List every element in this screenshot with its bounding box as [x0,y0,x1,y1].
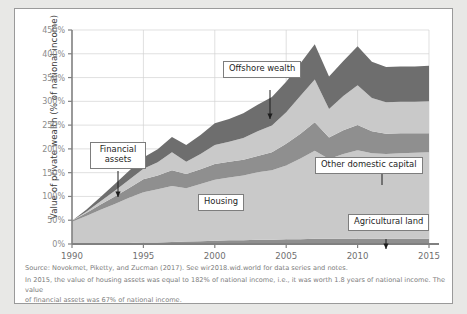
svg-text:2015: 2015 [418,251,440,261]
svg-text:200%: 200% [42,145,65,154]
svg-text:150%: 150% [42,169,65,178]
footnote-note-line1: In 2015, the value of housing assets was… [25,275,445,295]
chart-container: Value of private wealth (% of national i… [15,9,452,303]
svg-text:2005: 2005 [275,251,297,261]
svg-text:50%: 50% [47,216,65,225]
footnotes: Source: Novokmet, Piketty, and Zucman (2… [25,263,445,305]
footnote-source: Source: Novokmet, Piketty, and Zucman (2… [25,263,445,273]
svg-text:2010: 2010 [347,251,369,261]
svg-text:1990: 1990 [61,251,83,261]
svg-text:350%: 350% [42,74,65,83]
footnote-note-line2: of financial assets was 67% of national … [25,295,445,305]
annotation-other-domestic-capital: Other domestic capital [315,157,423,174]
svg-text:250%: 250% [42,121,65,130]
annotation-financial-assets: Financial assets [90,142,146,169]
svg-text:100%: 100% [42,192,65,201]
svg-text:450%: 450% [42,26,65,35]
svg-text:0%: 0% [52,240,65,249]
annotation-offshore-wealth: Offshore wealth [223,61,301,78]
svg-text:2000: 2000 [204,251,226,261]
stacked-area-chart: 0%50%100%150%200%250%300%350%400%450%199… [15,9,452,303]
svg-text:400%: 400% [42,50,65,59]
annotation-agricultural-land: Agricultural land [348,214,429,231]
figure-panel: Value of private wealth (% of national i… [14,8,453,304]
svg-text:300%: 300% [42,97,65,106]
svg-text:1995: 1995 [132,251,154,261]
annotation-housing: Housing [198,194,244,211]
